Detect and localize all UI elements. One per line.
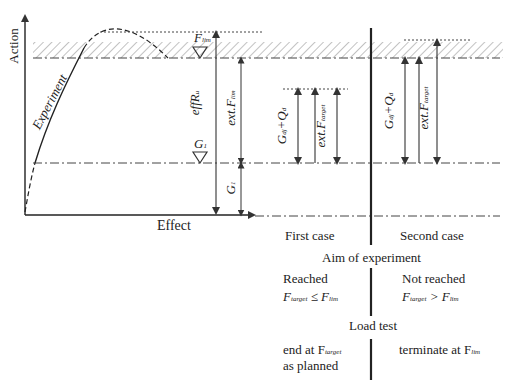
first-aim-condition: Ftarget ≤ Flim	[283, 289, 338, 305]
first-aim-status: Reached	[283, 271, 328, 287]
first-load-test-line2: as planned	[283, 358, 338, 374]
ext-f-lim-label: ext.Flim	[223, 90, 239, 125]
first-gq-label: Gdj+Qd	[274, 108, 290, 145]
experiment-curve-dashed-low	[25, 163, 35, 212]
y-axis-label: Action	[6, 26, 22, 66]
load-test-heading: Load test	[349, 318, 397, 334]
first-case-label: First case	[285, 228, 334, 244]
f-lim-label: Flim	[194, 30, 211, 46]
x-axis-label: Effect	[157, 218, 191, 234]
g1-dim-label: G1	[223, 182, 239, 195]
second-ext-target-label: ext.Ftarget	[416, 87, 432, 130]
second-case-label: Second case	[400, 228, 464, 244]
g1-label: G1	[194, 136, 207, 152]
second-load-test: terminate at Flim	[399, 342, 480, 358]
diagram-graphics	[0, 0, 506, 391]
second-aim-condition: Ftarget > Flim	[402, 289, 459, 305]
g1-triangle-icon	[193, 152, 207, 163]
limit-hatch-band	[33, 42, 503, 58]
second-aim-status: Not reached	[402, 271, 465, 287]
eff-r-label: effRu	[187, 91, 203, 115]
first-ext-target-label: ext.Ftarget	[313, 105, 329, 148]
first-load-test-line1: end at Ftarget	[283, 342, 341, 358]
second-gq-label: Gdj+Qd	[381, 93, 397, 130]
load-test-diagram: Action Effect Experiment Flim G1 effRu e…	[0, 0, 506, 391]
aim-of-experiment-heading: Aim of experiment	[322, 250, 421, 266]
